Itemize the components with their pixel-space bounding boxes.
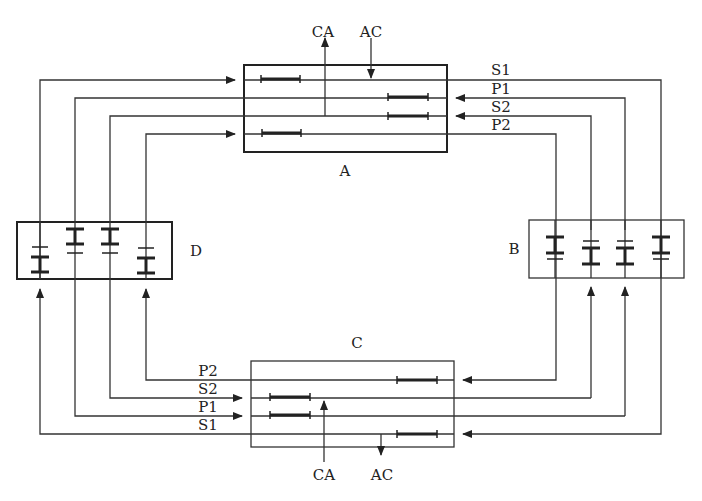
ca-label-bottom: CA — [313, 466, 335, 484]
label-p1-left: P1 — [198, 398, 218, 416]
signal-path-s1 — [40, 80, 661, 434]
ac-label-top: AC — [359, 23, 382, 41]
switches-c — [270, 376, 437, 438]
signal-path-p1 — [75, 98, 625, 416]
node-a: A — [244, 65, 447, 180]
label-p1-right: P1 — [491, 80, 511, 98]
ports-c: CA AC — [313, 401, 393, 484]
label-s2-left: S2 — [198, 380, 218, 398]
label-s1-right: S1 — [491, 61, 511, 79]
symbols-d — [31, 229, 155, 273]
labels-right: S1 P1 S2 P2 — [491, 61, 511, 134]
node-c: C — [251, 334, 454, 447]
label-s2-right: S2 — [491, 98, 511, 116]
switches-a — [261, 75, 428, 137]
ca-label-top: CA — [312, 23, 334, 41]
node-c-label: C — [351, 334, 362, 352]
symbols-b — [546, 237, 670, 264]
through-lines — [40, 220, 661, 279]
ac-label-bottom: AC — [370, 466, 393, 484]
labels-left-bottom: P2 S2 P1 S1 — [198, 362, 218, 434]
node-b-label: B — [508, 240, 519, 258]
node-a-label: A — [339, 162, 351, 180]
label-s1-left: S1 — [198, 416, 218, 434]
node-d-label: D — [190, 242, 202, 260]
label-p2-left: P2 — [198, 362, 218, 380]
ports-a: CA AC — [312, 23, 382, 116]
label-p2-right: P2 — [491, 116, 511, 134]
ring-diagram: A B C D — [0, 0, 702, 501]
